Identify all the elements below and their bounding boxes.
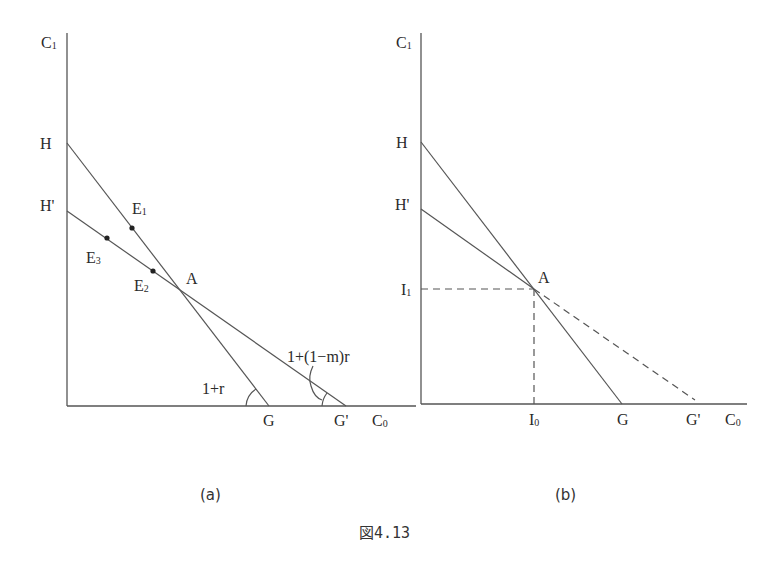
label-H-prime: H' [395,196,410,213]
label-G: G [263,412,275,429]
panel-caption-a: (a) [200,486,221,504]
label-E1: E1 [132,200,147,217]
x-axis-label: C0 [725,411,741,428]
x-axis-label: C0 [372,412,388,429]
panel-b: C1 H H' I1 A I0 G G' C0 (b) [395,33,747,504]
angle-arc-G [246,389,256,406]
label-H: H [396,134,408,151]
panel-a: C1 H H' E1 E3 E2 A 1+r 1+(1−m)r G G' C0 … [40,33,416,504]
line-H-prime-A [421,209,534,289]
label-E3: E3 [86,249,101,266]
line-H-prime-G-prime [67,211,346,406]
angle-leader [310,366,322,400]
angle-arc-G-prime [322,393,327,406]
label-angle-1-plus-1-minus-m-r: 1+(1−m)r [287,348,350,366]
line-HG [421,142,622,404]
label-H: H [40,135,52,152]
label-G-prime: G' [334,412,349,429]
y-axis-label: C1 [396,34,412,51]
label-E2: E2 [134,277,149,294]
label-I1: I1 [401,281,411,298]
dashed-line-A-G-prime [534,289,695,400]
label-A: A [538,269,550,286]
point-E2 [150,268,155,273]
point-E1 [129,225,134,230]
figure-caption: 図4.13 [359,524,410,542]
y-axis-label: C1 [41,34,57,51]
label-A: A [186,270,198,287]
point-E3 [104,235,109,240]
label-G: G [617,411,629,428]
label-G-prime: G' [686,411,701,428]
figure-4-13: C1 H H' E1 E3 E2 A 1+r 1+(1−m)r G G' C0 … [0,0,773,571]
panel-caption-b: (b) [555,486,576,504]
label-I0: I0 [529,411,539,428]
line-HG [67,143,269,406]
label-H-prime: H' [40,197,55,214]
label-angle-1-plus-r: 1+r [202,380,225,397]
